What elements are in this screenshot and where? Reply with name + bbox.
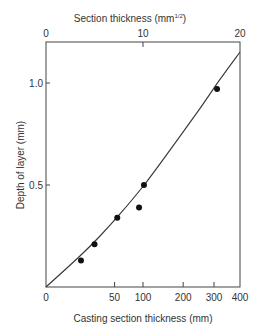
top-axis-ticks: 01020 [43,28,246,47]
bottom-tick-label: 200 [175,292,192,303]
data-point [114,215,120,221]
left-tick-label: 0.5 [29,180,43,191]
data-point [141,182,147,188]
left-tick-label: 1.0 [29,78,43,89]
data-point [78,257,84,263]
top-tick-label: 0 [43,28,49,39]
top-tick-label: 10 [137,28,149,39]
data-point [92,241,98,247]
left-axis-ticks: 0.51.0 [29,78,50,191]
bottom-tick-label: 100 [135,292,152,303]
fitted-curve [46,52,240,287]
chart: Section thickness (mm1/2) 01020 05010020… [0,0,260,332]
top-axis-title: Section thickness (mm1/2) [74,13,186,24]
x-axis-title: Casting section thickness (mm) [74,313,213,324]
data-point [214,86,220,92]
bottom-tick-label: 300 [206,292,223,303]
bottom-tick-label: 0 [43,292,49,303]
bottom-axis-ticks: 050100200300400 [43,282,249,303]
bottom-tick-label: 50 [109,292,121,303]
plot-frame [46,42,240,287]
bottom-tick-label: 400 [232,292,249,303]
top-tick-label: 20 [234,28,246,39]
y-axis-title: Depth of layer (mm) [15,121,26,209]
data-point [136,204,142,210]
